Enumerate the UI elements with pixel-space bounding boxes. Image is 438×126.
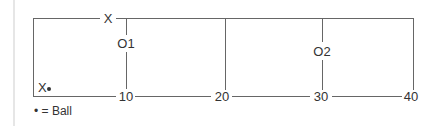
player-x-top: X — [104, 11, 113, 26]
yard-marker-40: 40 — [404, 89, 418, 104]
ball-legend-icon: • — [34, 104, 38, 118]
field-lines — [33, 18, 414, 97]
ball-icon — [47, 87, 51, 91]
yard-marker-30: 30 — [314, 89, 328, 104]
yard-marker-20: 20 — [215, 89, 229, 104]
yard-marker-10: 10 — [119, 89, 133, 104]
legend: • = Ball — [34, 104, 72, 118]
legend-text: = Ball — [42, 104, 72, 118]
defender-o1: O1 — [117, 36, 134, 51]
defender-o2: O2 — [313, 44, 330, 59]
player-x-ball-carrier: X — [38, 80, 47, 95]
